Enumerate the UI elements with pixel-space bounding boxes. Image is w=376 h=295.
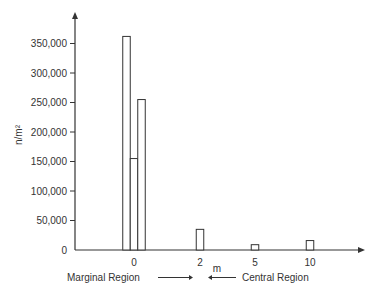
y-tick-label: 300,000 <box>31 68 68 79</box>
y-tick-label: 150,000 <box>31 156 68 167</box>
central-region-arrow-icon <box>208 275 212 280</box>
y-tick-label: 100,000 <box>31 186 68 197</box>
x-axis-label: m <box>213 263 221 274</box>
bar <box>306 241 314 250</box>
y-tick-label: 50,000 <box>36 215 67 226</box>
y-tick-label: 350,000 <box>31 38 68 49</box>
x-axis-arrow-icon <box>358 247 365 253</box>
bar <box>196 229 204 250</box>
bar <box>251 245 259 250</box>
bars <box>123 36 314 250</box>
axes: 050,000100,000150,000200,000250,000300,0… <box>31 12 365 256</box>
central-region-label: Central Region <box>242 272 309 283</box>
bar <box>138 100 146 250</box>
marginal-region-label: Marginal Region <box>67 272 140 283</box>
y-axis-label: n/m² <box>13 124 24 145</box>
marginal-region-arrow-icon <box>189 275 193 280</box>
y-axis-arrow-icon <box>72 12 78 19</box>
y-tick-label: 250,000 <box>31 97 68 108</box>
labels: 02510n/m²mMarginal RegionCentral Region <box>13 124 316 283</box>
y-tick-label: 0 <box>61 245 67 256</box>
x-tick-label: 2 <box>197 257 203 268</box>
bar <box>123 36 131 250</box>
x-tick-label: 0 <box>131 257 137 268</box>
x-tick-label: 10 <box>304 257 316 268</box>
x-tick-label: 5 <box>252 257 258 268</box>
chart: 050,000100,000150,000200,000250,000300,0… <box>0 0 376 295</box>
bar <box>130 159 138 250</box>
y-tick-label: 200,000 <box>31 127 68 138</box>
